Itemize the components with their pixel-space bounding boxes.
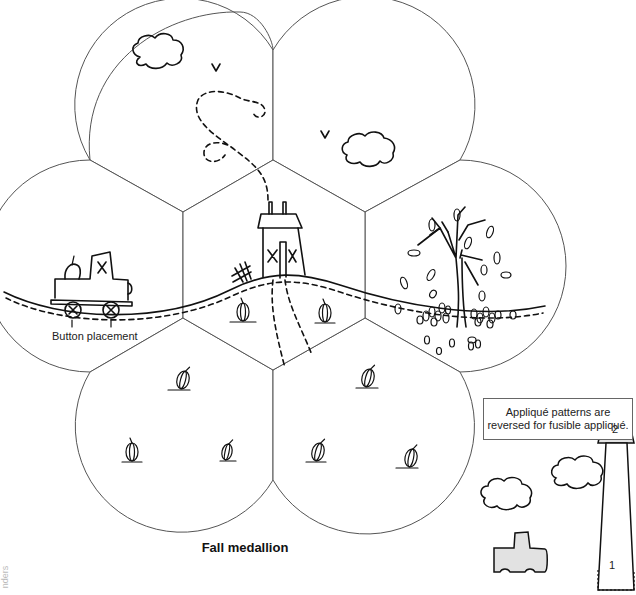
note-line-2: reversed for fusible appliqué. (487, 419, 628, 432)
figure-caption: Fall medallion (0, 540, 490, 555)
fall-medallion-illustration (0, 0, 636, 595)
note-line-1: Appliqué patterns are (506, 406, 611, 419)
body-piece-number: 1 (609, 559, 615, 571)
button-placement-label: Button placement (52, 330, 138, 342)
cloud-pattern-piece (481, 477, 532, 509)
cloud-pattern-piece (552, 456, 603, 488)
credit-text: nders (0, 566, 10, 589)
house-body-pattern-piece (598, 443, 634, 590)
roof-piece-number: 2 (612, 423, 618, 435)
applique-note-box: Appliqué patterns are reversed for fusib… (483, 398, 633, 440)
truck-pattern-piece (494, 532, 547, 572)
